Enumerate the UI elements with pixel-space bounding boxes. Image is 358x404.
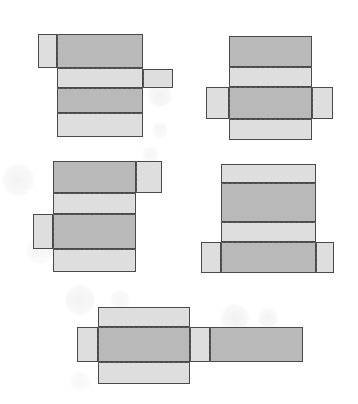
- net-face-dark: [98, 327, 190, 362]
- net-face-light: [190, 327, 210, 362]
- fold-line: [210, 327, 211, 362]
- net-face-light: [77, 327, 98, 362]
- net-5: [0, 0, 358, 404]
- fold-line: [98, 362, 190, 363]
- fold-line: [98, 327, 190, 328]
- net-face-dark: [210, 327, 303, 362]
- net-face-light: [98, 307, 190, 327]
- fold-line: [190, 327, 191, 362]
- fold-line: [98, 327, 99, 362]
- nets-diagram: [0, 0, 358, 404]
- net-face-light: [98, 362, 190, 384]
